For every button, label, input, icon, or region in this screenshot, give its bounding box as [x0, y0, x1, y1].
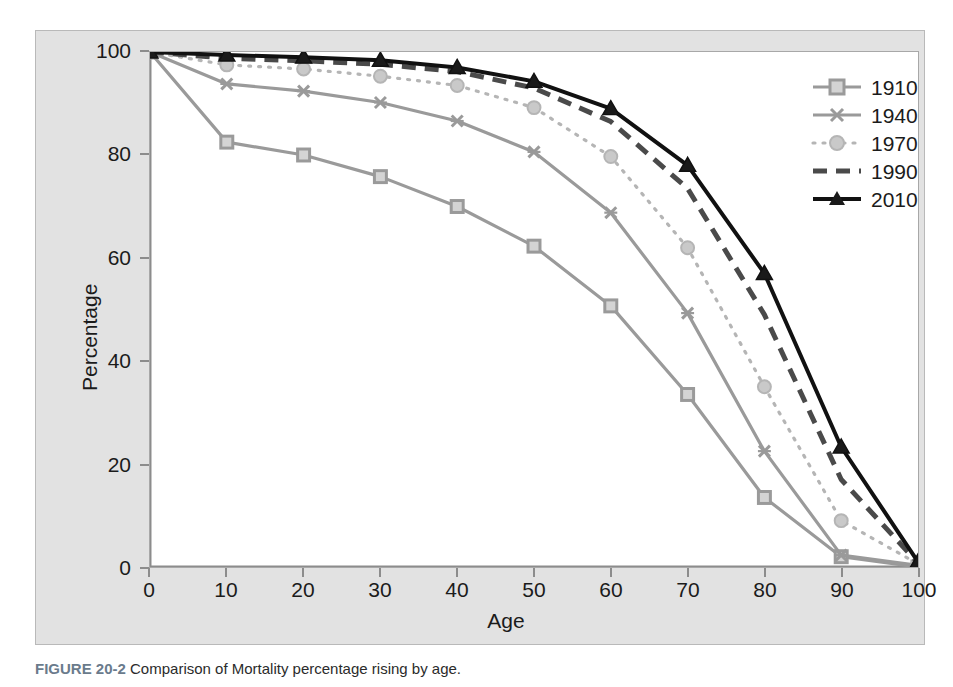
legend-marker-square-icon	[811, 76, 863, 98]
data-point-1940-10	[220, 78, 233, 89]
x-tick-mark-40	[456, 568, 458, 577]
chart-panel: 020406080100 0102030405060708090100 Perc…	[35, 30, 925, 645]
x-tick-mark-100	[918, 568, 920, 577]
data-point-1910-70	[682, 388, 694, 400]
series-line-1970	[150, 52, 918, 564]
data-point-1940-70	[681, 308, 694, 319]
x-tick-label-70: 70	[676, 578, 699, 602]
legend-label-1940: 1940	[871, 105, 918, 126]
figure-caption: FIGURE 20-2 Comparison of Mortality perc…	[35, 660, 925, 677]
legend-marker-triangle-icon	[811, 188, 863, 210]
data-point-1970-30	[374, 70, 387, 83]
y-tick-label-60: 60	[71, 246, 131, 270]
data-point-1910-20	[298, 149, 310, 161]
series-line-1940	[150, 52, 918, 565]
x-tick-mark-60	[610, 568, 612, 577]
series-line-2010	[150, 52, 918, 562]
data-point-2010-90	[833, 439, 849, 453]
y-tick-label-0: 0	[71, 556, 131, 580]
y-tick-label-100: 100	[71, 39, 131, 63]
x-axis-title: Age	[487, 609, 524, 633]
legend: 19101940197019902010	[811, 73, 918, 213]
y-tick-label-20: 20	[71, 453, 131, 477]
plot-area	[149, 51, 919, 568]
data-point-1910-60	[605, 300, 617, 312]
x-tick-mark-0	[148, 568, 150, 577]
x-tick-label-10: 10	[214, 578, 237, 602]
legend-item-1970[interactable]: 1970	[811, 129, 918, 157]
x-tick-label-60: 60	[599, 578, 622, 602]
x-tick-label-100: 100	[901, 578, 936, 602]
figure-root: 020406080100 0102030405060708090100 Perc…	[0, 0, 953, 687]
series-line-1990	[150, 52, 918, 563]
series-line-1910	[150, 52, 918, 567]
figure-caption-tag: FIGURE 20-2	[35, 660, 126, 677]
y-tick-mark-40	[140, 360, 149, 362]
data-point-1910-50	[528, 240, 540, 252]
data-point-1940-50	[528, 146, 541, 157]
legend-item-1990[interactable]: 1990	[811, 157, 918, 185]
figure-caption-text: Comparison of Mortality percentage risin…	[130, 660, 461, 677]
y-tick-mark-60	[140, 257, 149, 259]
x-tick-mark-20	[302, 568, 304, 577]
y-tick-mark-20	[140, 464, 149, 466]
legend-marker-circle-icon	[811, 132, 863, 154]
legend-label-1910: 1910	[871, 77, 918, 98]
legend-label-1970: 1970	[871, 133, 918, 154]
y-tick-mark-100	[140, 50, 149, 52]
x-tick-label-40: 40	[445, 578, 468, 602]
data-point-1970-80	[758, 380, 771, 393]
x-tick-label-30: 30	[368, 578, 391, 602]
y-axis-title: Percentage	[78, 284, 102, 391]
legend-item-2010[interactable]: 2010	[811, 185, 918, 213]
legend-marker-none-icon	[811, 160, 863, 182]
x-tick-label-50: 50	[522, 578, 545, 602]
y-tick-label-80: 80	[71, 142, 131, 166]
x-tick-mark-10	[225, 568, 227, 577]
data-point-1910-80	[758, 491, 770, 503]
x-tick-label-90: 90	[830, 578, 853, 602]
x-tick-mark-90	[841, 568, 843, 577]
data-point-1970-20	[297, 63, 310, 76]
x-tick-mark-70	[687, 568, 689, 577]
data-point-2010-20	[296, 52, 312, 63]
x-tick-label-20: 20	[291, 578, 314, 602]
legend-label-2010: 2010	[871, 189, 918, 210]
x-tick-mark-80	[764, 568, 766, 577]
legend-label-1990: 1990	[871, 161, 918, 182]
data-point-1940-40	[451, 116, 464, 127]
legend-item-1940[interactable]: 1940	[811, 101, 918, 129]
data-point-1940-60	[604, 207, 617, 218]
data-point-1940-80	[758, 446, 771, 457]
data-point-1970-70	[681, 241, 694, 254]
data-point-1970-60	[604, 150, 617, 163]
legend-item-1910[interactable]: 1910	[811, 73, 918, 101]
data-point-1940-30	[374, 97, 387, 108]
x-tick-mark-30	[379, 568, 381, 577]
data-point-1970-40	[451, 79, 464, 92]
x-tick-mark-50	[533, 568, 535, 577]
data-point-1970-90	[835, 514, 848, 527]
x-tick-label-80: 80	[753, 578, 776, 602]
data-point-1910-40	[451, 201, 463, 213]
legend-marker-cross-icon	[811, 104, 863, 126]
x-tick-label-0: 0	[143, 578, 155, 602]
data-point-1970-50	[528, 101, 541, 114]
y-tick-mark-80	[140, 153, 149, 155]
chart-canvas	[150, 52, 918, 567]
data-point-1940-20	[297, 86, 310, 97]
data-point-1910-30	[374, 171, 386, 183]
data-point-1910-10	[221, 136, 233, 148]
